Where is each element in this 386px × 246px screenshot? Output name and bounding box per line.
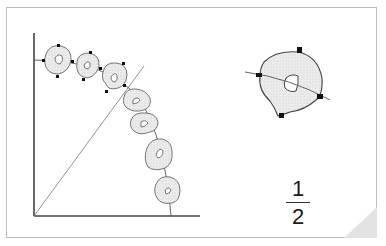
page-curl: [344, 207, 377, 238]
shape-4: [123, 89, 150, 111]
fraction-denominator: 2: [286, 206, 310, 228]
diagonal-line: [34, 66, 144, 216]
shape-6: [145, 139, 172, 170]
fraction-label: 1 2: [286, 178, 310, 228]
shape-7: [155, 177, 180, 204]
shape-2: [77, 51, 102, 81]
shape-sequence: [42, 44, 180, 203]
diagram-canvas: [0, 0, 386, 246]
shape-5: [130, 113, 158, 134]
trajectory-curve: [34, 60, 171, 216]
fraction-bar: [286, 202, 310, 203]
shape-1: [42, 44, 74, 78]
fraction-numerator: 1: [286, 178, 310, 200]
shape-3: [102, 62, 127, 93]
enlarged-shape: [245, 47, 330, 118]
